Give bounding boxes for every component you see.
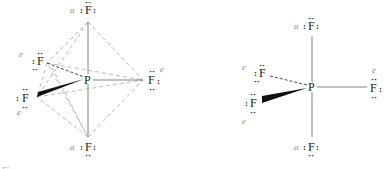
lone-pair: ·· <box>308 13 314 23</box>
lone-pair: ·· <box>259 60 265 70</box>
lone-pair: ·· <box>371 92 377 102</box>
center-atom-p: P <box>308 80 315 94</box>
axial-label: a <box>70 142 75 152</box>
lone-pair: ·· <box>85 150 91 160</box>
lone-pair: ·· <box>254 76 260 86</box>
lone-pair: ·· <box>32 64 38 74</box>
lone-pair: : <box>93 5 96 15</box>
equatorial-label: e <box>160 64 164 74</box>
lone-pair: : <box>80 142 83 152</box>
lone-pair: ·· <box>250 89 256 99</box>
equatorial-label: e <box>242 62 246 72</box>
lone-pair: : <box>316 142 319 152</box>
hashed-bond <box>47 63 84 77</box>
figure-caption: Fig. <box>2 165 18 169</box>
lone-pair: : <box>316 21 319 31</box>
lone-pair: ·· <box>85 0 91 7</box>
wedge-bond <box>37 79 84 97</box>
center-atom-p: P <box>84 73 91 87</box>
lone-pair: : <box>157 76 160 86</box>
lone-pair: ·· <box>22 84 28 94</box>
lone-pair: : <box>93 142 96 152</box>
lone-pair: : <box>303 142 306 152</box>
axial-label: a <box>294 21 299 31</box>
lone-pair: ·· <box>149 66 155 76</box>
pf5-diagram-figure: P a F : : ·· a F : : ·· e F : ·· ·· e F … <box>0 0 387 169</box>
right-diagram: P a F : : ·· a F : : ·· e F : ·· ·· e F … <box>242 13 382 160</box>
equatorial-label: e <box>17 107 21 117</box>
lone-pair: : <box>16 93 19 103</box>
left-diagram: P a F : : ·· a F : : ·· e F : ·· ·· e F … <box>16 0 164 160</box>
lone-pair: : <box>379 84 382 94</box>
axial-label: a <box>294 142 299 152</box>
lone-pair: ·· <box>37 48 43 58</box>
bonds <box>88 22 143 137</box>
axial-label: a <box>70 5 75 15</box>
lone-pair: : <box>245 98 248 108</box>
hashed-bond <box>270 76 307 85</box>
lone-pair: ·· <box>22 102 28 112</box>
lone-pair: : <box>303 21 306 31</box>
equatorial-label: e <box>19 49 23 59</box>
lone-pair: : <box>80 5 83 15</box>
lone-pair: ·· <box>371 74 377 84</box>
bonds <box>312 36 367 137</box>
equatorial-label: e <box>242 116 246 126</box>
lone-pair: ·· <box>250 107 256 117</box>
lone-pair: ·· <box>308 150 314 160</box>
lone-pair: ·· <box>149 84 155 94</box>
wedge-bond <box>262 88 307 103</box>
